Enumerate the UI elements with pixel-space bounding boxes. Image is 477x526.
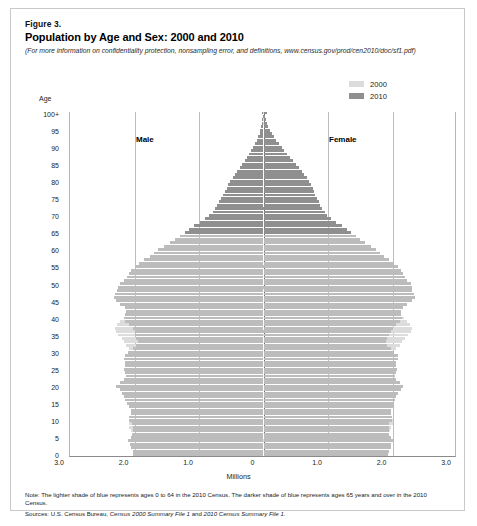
pyramid-bar [129, 405, 264, 408]
pyramid-age-row [70, 224, 455, 227]
legend-swatch-2010 [349, 93, 364, 99]
pyramid-bar [126, 310, 263, 313]
pyramid-bar [264, 255, 385, 258]
pyramid-bar [264, 228, 347, 231]
pyramid-bar [125, 399, 263, 402]
pyramid-age-row [70, 385, 455, 388]
pyramid-bar [227, 187, 264, 190]
pyramid-age-row [70, 436, 455, 439]
y-axis-tick-label: 60 [51, 247, 59, 254]
pyramid-age-row [70, 446, 455, 449]
pyramid-bar [237, 170, 263, 173]
x-axis-tick-label: 2.0 [377, 459, 387, 466]
pyramid-bar [264, 422, 390, 425]
pyramid-bar [120, 282, 263, 285]
pyramid-bar [264, 197, 318, 200]
pyramid-bar [133, 453, 263, 456]
male-label: Male [136, 135, 154, 144]
pyramid-bar [219, 200, 264, 203]
footnote-note: Note: The lighter shade of blue represen… [25, 491, 450, 507]
pyramid-bar [120, 303, 263, 306]
pyramid-age-row [70, 412, 455, 415]
pyramid-age-row [70, 450, 455, 453]
y-axis-tick-label: 45 [51, 298, 59, 305]
pyramid-bar [264, 317, 403, 320]
pyramid-age-row [70, 422, 455, 425]
pyramid-bar [251, 149, 263, 152]
pyramid-age-row [70, 180, 455, 183]
pyramid-bar [120, 381, 264, 384]
pyramid-bar [264, 129, 270, 132]
pyramid-bar [264, 310, 401, 313]
pyramid-bar [116, 299, 264, 302]
pyramid-age-row [70, 187, 455, 190]
y-axis-tick-label: 10 [51, 418, 59, 425]
pyramid-bar [264, 419, 392, 422]
pyramid-bar [264, 159, 294, 162]
pyramid-bar [264, 207, 323, 210]
title-block: Figure 3. Population by Age and Sex: 200… [25, 19, 450, 56]
pyramid-bar [242, 163, 263, 166]
pyramid-bar [264, 347, 391, 350]
pyramid-bars [70, 112, 455, 456]
pyramid-bar [264, 286, 412, 289]
pyramid-bar [264, 224, 342, 227]
pyramid-age-row [70, 255, 455, 258]
y-axis-tick-label: 55 [51, 264, 59, 271]
figure-number: Figure 3. [25, 19, 450, 29]
pyramid-bar [120, 388, 264, 391]
pyramid-bar [114, 296, 264, 299]
pyramid-bar [264, 176, 307, 179]
pyramid-bar [264, 361, 397, 364]
pyramid-age-row [70, 323, 455, 326]
pyramid-age-row [70, 320, 455, 323]
pyramid-bar [131, 412, 264, 415]
pyramid-bar [264, 429, 389, 432]
pyramid-bar [264, 385, 404, 388]
pyramid-bar [131, 446, 264, 449]
pyramid-bar [264, 262, 395, 265]
pyramid-age-row [70, 276, 455, 279]
pyramid-age-row [70, 378, 455, 381]
pyramid-age-row [70, 132, 455, 135]
pyramid-bar [264, 166, 299, 169]
pyramid-age-row [70, 289, 455, 292]
pyramid-bar [264, 289, 413, 292]
pyramid-age-row [70, 340, 455, 343]
pyramid-age-row [70, 194, 455, 197]
pyramid-age-row [70, 139, 455, 142]
pyramid-age-row [70, 334, 455, 337]
pyramid-bar [264, 221, 337, 224]
pyramid-age-row [70, 173, 455, 176]
pyramid-bar [264, 149, 285, 152]
y-axis-tick-label: 100+ [43, 110, 59, 117]
pyramid-bar [264, 375, 396, 378]
pyramid-bar [264, 180, 310, 183]
pyramid-bar [264, 439, 394, 442]
pyramid-bar [230, 180, 264, 183]
pyramid-age-row [70, 245, 455, 248]
pyramid-bar [150, 255, 264, 258]
pyramid-bar [264, 163, 296, 166]
pyramid-age-row [70, 344, 455, 347]
pyramid-bar [264, 416, 392, 419]
pyramid-bar [264, 303, 408, 306]
pyramid-age-row [70, 112, 455, 115]
pyramid-age-row [70, 313, 455, 316]
figure-title: Population by Age and Sex: 2000 and 2010 [25, 31, 450, 43]
pyramid-age-row [70, 231, 455, 234]
pyramid-bar [264, 183, 312, 186]
pyramid-bar [264, 200, 319, 203]
pyramid-bar [264, 118, 267, 121]
pyramid-age-row [70, 347, 455, 350]
pyramid-age-row [70, 204, 455, 207]
pyramid-bar [264, 358, 398, 361]
pyramid-bar [264, 409, 391, 412]
pyramid-bar [126, 375, 263, 378]
pyramid-age-row [70, 200, 455, 203]
pyramid-bar [264, 265, 399, 268]
y-axis-tick-label: 50 [51, 281, 59, 288]
pyramid-bar [264, 402, 394, 405]
pyramid-bar [264, 327, 393, 330]
pyramid-bar [125, 364, 264, 367]
